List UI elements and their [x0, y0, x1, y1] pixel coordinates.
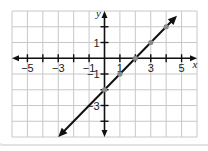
x-tick-label: 5 [179, 62, 185, 74]
y-axis-down-arrow-icon [102, 130, 108, 137]
coordinate-plane: −5−3−11351−1−3xy [0, 0, 208, 151]
series [58, 16, 177, 137]
data-point [102, 87, 107, 92]
x-axis-left-arrow-icon [12, 55, 19, 61]
x-tick-label: −5 [21, 62, 34, 74]
x-axis-label: x [192, 58, 198, 70]
y-axis-up-arrow-icon [102, 11, 108, 18]
data-point [148, 40, 153, 45]
y-axis-label: y [95, 7, 101, 19]
y-tick-label: 1 [93, 37, 99, 49]
x-tick-label: −3 [52, 62, 65, 74]
series-line [62, 20, 172, 133]
x-tick-label: 3 [148, 62, 154, 74]
data-point [133, 56, 138, 61]
y-tick-label: −1 [87, 68, 100, 80]
data-point [164, 24, 169, 29]
data-point [117, 71, 122, 76]
